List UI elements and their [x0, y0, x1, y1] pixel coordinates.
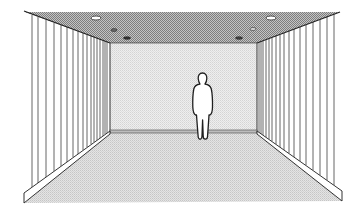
ceiling-light [124, 37, 131, 40]
ceiling-light [266, 16, 276, 20]
ceiling-light [91, 16, 101, 20]
ceiling-light [111, 29, 117, 32]
back-baseboard [110, 130, 257, 133]
room-illustration [0, 0, 360, 218]
ceiling-light [236, 37, 243, 40]
ceiling-light [250, 28, 256, 31]
back-wall [110, 43, 257, 131]
